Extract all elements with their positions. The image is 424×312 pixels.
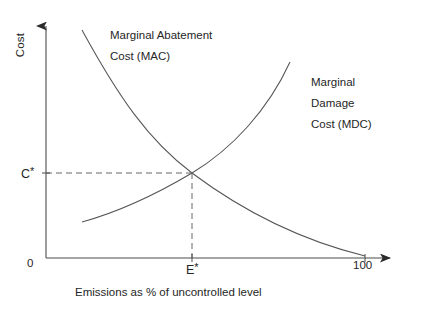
y-tick-label-cstar: C*	[21, 164, 34, 181]
y-axis-label: Cost	[13, 23, 27, 67]
x-axis-label: Emissions as % of uncontrolled level	[75, 285, 262, 299]
mac-label-line2: Cost (MAC)	[110, 46, 212, 67]
x-tick-label-estar: E*	[186, 260, 199, 277]
x-tick-label-100: 100	[353, 258, 372, 272]
axes	[46, 26, 390, 258]
chart-figure: Cost Marginal Abatement Cost (MAC) Margi…	[0, 0, 424, 312]
mdc-curve	[82, 62, 290, 222]
mdc-label-line1: Marginal	[311, 72, 372, 93]
estar-asterisk: *	[194, 261, 198, 273]
mdc-curve-label: Marginal Damage Cost (MDC)	[311, 72, 372, 135]
mdc-label-line2: Damage	[311, 93, 372, 114]
cstar-base-text: C	[21, 167, 30, 181]
mac-label-line1: Marginal Abatement	[110, 25, 212, 46]
origin-tick-label: 0	[27, 256, 33, 270]
mac-curve-label: Marginal Abatement Cost (MAC)	[110, 25, 212, 67]
mdc-label-line3: Cost (MDC)	[311, 114, 372, 135]
cstar-asterisk: *	[30, 165, 34, 177]
